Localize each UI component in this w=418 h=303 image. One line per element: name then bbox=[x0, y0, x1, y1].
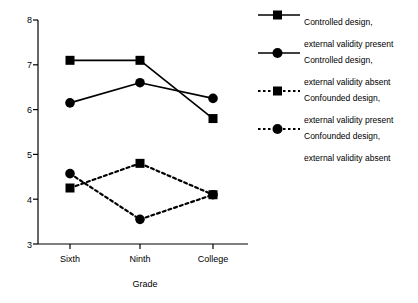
legend-key-solid-circle-icon bbox=[258, 47, 300, 59]
data-point-3-1 bbox=[135, 215, 145, 225]
x-tick-label-college: College bbox=[183, 255, 243, 264]
data-point-2-1 bbox=[136, 159, 145, 168]
x-tick-label-sixth: Sixth bbox=[40, 255, 100, 264]
data-point-2-0 bbox=[66, 184, 75, 193]
data-point-1-2 bbox=[208, 94, 218, 104]
legend-entry-controlled-present: Controlled design, external validity pre… bbox=[258, 6, 418, 39]
line-chart-figure: 8 7 6 5 4 3 Sixth Ninth College Grade Co… bbox=[0, 0, 418, 303]
series-2-segment-1 bbox=[140, 163, 213, 194]
legend-key-dotted-circle-icon bbox=[258, 123, 300, 135]
legend-label-line1: Confounded design, bbox=[304, 93, 380, 103]
legend-label-confounded-absent: Confounded design, external validity abs… bbox=[304, 120, 418, 164]
legend-entry-confounded-absent: Confounded design, external validity abs… bbox=[258, 120, 418, 153]
y-tick-label-5: 5 bbox=[10, 151, 32, 160]
series-1-segment-0 bbox=[70, 83, 140, 103]
legend-key-dotted-square-icon bbox=[258, 85, 300, 97]
y-tick-label-6: 6 bbox=[10, 106, 32, 115]
data-point-0-0 bbox=[66, 56, 75, 65]
data-point-0-2 bbox=[209, 114, 218, 123]
legend-label-line1: Confounded design, bbox=[304, 131, 380, 141]
y-tick-label-3: 3 bbox=[10, 241, 32, 250]
legend-entry-confounded-present: Confounded design, external validity pre… bbox=[258, 82, 418, 115]
legend-label-line1: Controlled design, bbox=[304, 55, 373, 65]
chart-legend: Controlled design, external validity pre… bbox=[258, 6, 418, 158]
data-point-1-1 bbox=[135, 78, 145, 88]
series-0-segment-1 bbox=[140, 60, 213, 118]
legend-label-line1: Controlled design, bbox=[304, 17, 373, 27]
x-axis-title: Grade bbox=[110, 279, 180, 289]
x-tick-label-ninth: Ninth bbox=[110, 255, 170, 264]
data-point-3-2 bbox=[208, 190, 218, 200]
data-point-3-0 bbox=[65, 169, 75, 179]
y-tick-label-8: 8 bbox=[10, 16, 32, 25]
y-tick-label-4: 4 bbox=[10, 196, 32, 205]
series-1-segment-1 bbox=[140, 83, 213, 99]
plot-area: 8 7 6 5 4 3 Sixth Ninth College Grade bbox=[0, 0, 250, 303]
data-point-0-1 bbox=[136, 56, 145, 65]
series-2-segment-0 bbox=[70, 163, 140, 188]
data-point-1-0 bbox=[65, 98, 75, 108]
legend-label-line2: external validity absent bbox=[304, 153, 390, 163]
series-3-segment-1 bbox=[140, 195, 213, 220]
series-3-segment-0 bbox=[70, 174, 140, 220]
legend-key-solid-square-icon bbox=[258, 9, 300, 21]
legend-entry-controlled-absent: Controlled design, external validity abs… bbox=[258, 44, 418, 77]
y-tick-label-7: 7 bbox=[10, 61, 32, 70]
